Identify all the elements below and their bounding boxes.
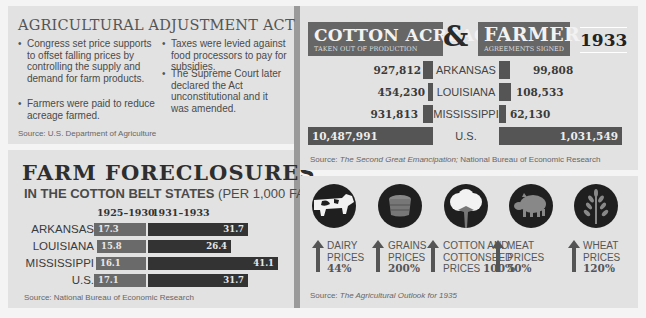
cotton-boll-icon	[444, 184, 488, 228]
acreage-value: 10,487,991	[312, 127, 378, 145]
state-label: U.S.	[433, 127, 499, 145]
foreclosure-row: MISSISSIPPI 16.1 41.1	[8, 256, 294, 271]
bar-1931: 26.4	[148, 240, 231, 253]
banner-title: COTTON ACREAGE	[314, 25, 502, 45]
up-arrow-icon	[568, 240, 580, 272]
banner-title: FARMER	[484, 23, 580, 45]
grains-label: GRAINSPRICES200%	[388, 240, 426, 275]
bar-1931: 31.7	[148, 274, 248, 287]
foreclosure-row: ARKANSAS 17.3 31.7	[8, 222, 294, 237]
up-arrow-icon	[312, 240, 324, 272]
dairy-label: DAIRYPRICES44%	[327, 240, 364, 275]
state-label: LOUISIANA	[433, 83, 499, 101]
acreage-bar	[423, 105, 433, 123]
cotton-row: 10,487,991 U.S. 1,031,549	[300, 127, 638, 145]
up-arrow-icon	[492, 240, 504, 272]
foreclosure-row: U.S. 17.1 31.7	[8, 273, 294, 288]
state-label: ARKANSAS	[31, 222, 94, 237]
cotton-label: COTTON ANDCOTTONSEEDPRICES 100%	[443, 240, 515, 275]
grain-basket-icon	[378, 184, 422, 228]
cotton-year: 1933	[580, 27, 627, 53]
acreage-value: 454,230	[378, 83, 426, 101]
acreage-value: 931,813	[371, 105, 419, 123]
cotton-row: 927,812 ARKANSAS 99,808	[300, 61, 638, 79]
state-label: LOUISIANA	[33, 239, 94, 254]
col-header-1931: 1931–1933	[152, 207, 210, 218]
agreements-value: 1,031,549	[560, 127, 618, 145]
aaa-bullet: Congress set price supports to offset fa…	[18, 38, 158, 84]
up-arrow-icon	[372, 240, 384, 272]
foreclosures-subtitle: IN THE COTTON BELT STATES (PER 1,000 FAR…	[24, 186, 338, 201]
foreclosures-title: FARM FORECLOSURES	[22, 160, 316, 185]
meat-label: MEATPRICES50%	[507, 240, 544, 275]
cotton-chart: 927,812 ARKANSAS 99,808 454,230 LOUISIAN…	[300, 61, 638, 161]
aaa-title: AGRICULTURAL ADJUSTMENT ACT1933	[18, 16, 340, 33]
prices-source: Source: The Agricultural Outlook for 193…	[310, 291, 457, 300]
bar-1931: 41.1	[148, 257, 278, 270]
cotton-acreage-banner: COTTON ACREAGE TAKEN OUT OF PRODUCTION	[308, 22, 443, 56]
agreements-value: 108,533	[516, 83, 564, 101]
aaa-bullet: The Supreme Court later declared the Act…	[162, 68, 287, 114]
bar-1925: 16.1	[96, 257, 146, 270]
foreclosures-source: Source: National Bureau of Economic Rese…	[24, 293, 194, 302]
cow-icon	[312, 184, 356, 228]
acreage-value: 927,812	[374, 61, 422, 79]
wheat-label: WHEATPRICES120%	[583, 240, 620, 275]
agreements-bar	[499, 61, 510, 79]
aaa-panel: AGRICULTURAL ADJUSTMENT ACT1933 Congress…	[8, 6, 294, 144]
acreage-bar: 10,487,991	[308, 127, 433, 145]
farmer-agreements-banner: FARMER AGREEMENTS SIGNED	[478, 22, 570, 56]
state-label: U.S.	[72, 273, 94, 288]
aaa-bullet: Farmers were paid to reduce acreage farm…	[18, 98, 158, 121]
agreements-value: 62,130	[510, 105, 550, 123]
foreclosures-panel: FARM FORECLOSURES IN THE COTTON BELT STA…	[8, 150, 294, 308]
state-label: MISSISSIPPI	[26, 256, 94, 271]
aaa-source: Source: U.S. Department of Agriculture	[18, 129, 156, 138]
cotton-row: 931,813 MISSISSIPPI 62,130	[300, 105, 638, 123]
ampersand: &	[443, 20, 468, 53]
agreements-bar	[499, 105, 506, 123]
wheat-icon	[574, 184, 618, 228]
cotton-row: 454,230 LOUISIANA 108,533	[300, 83, 638, 101]
state-label: ARKANSAS	[433, 61, 499, 79]
agreements-value: 99,808	[533, 61, 573, 79]
agreements-bar: 1,031,549	[499, 127, 622, 145]
pig-icon	[509, 184, 553, 228]
bar-1925: 17.3	[94, 223, 146, 236]
state-label: MISSISSIPPI	[433, 105, 499, 123]
bar-1925: 15.8	[97, 240, 146, 253]
bar-1925: 17.1	[94, 274, 146, 287]
bar-1931: 31.7	[148, 223, 248, 236]
col-header-1925: 1925–1930	[97, 207, 155, 218]
foreclosure-row: LOUISIANA 15.8 26.4	[8, 239, 294, 254]
up-arrow-icon	[427, 240, 439, 272]
cotton-source: Source: The Second Great Emancipation; N…	[310, 155, 600, 164]
agreements-bar	[499, 83, 511, 101]
banner-subtitle: AGREEMENTS SIGNED	[484, 45, 564, 53]
banner-subtitle: TAKEN OUT OF PRODUCTION	[314, 45, 417, 53]
prices-panel: DAIRYPRICES44% GRAINSPRICES200% COTTON A…	[300, 176, 638, 308]
acreage-bar	[423, 61, 433, 79]
